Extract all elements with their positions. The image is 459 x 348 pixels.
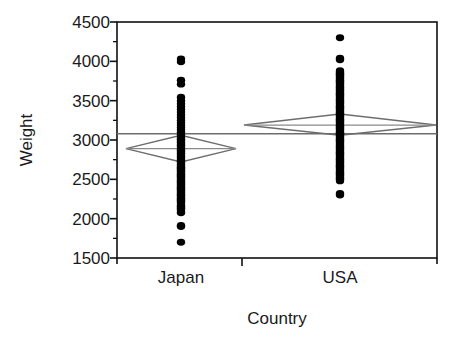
y-tick-label: 2500 xyxy=(72,170,110,189)
data-point xyxy=(177,239,185,246)
plot-canvas: Weight Country 1500200025003000350040004… xyxy=(0,0,459,348)
data-point xyxy=(336,55,344,62)
y-tick-label: 3500 xyxy=(72,92,110,111)
data-point xyxy=(177,94,185,101)
category-label-group: JapanUSA xyxy=(158,268,358,287)
data-point xyxy=(177,222,185,229)
data-point xyxy=(336,34,344,41)
category-label-usa: USA xyxy=(323,268,359,287)
x-tick-mark-group xyxy=(117,258,437,266)
y-tick-label: 3000 xyxy=(72,131,110,150)
x-axis-title: Country xyxy=(247,309,307,328)
data-point xyxy=(336,67,344,74)
diamond-group xyxy=(126,114,436,162)
y-tick-label: 1500 xyxy=(72,249,110,268)
category-label-japan: Japan xyxy=(158,268,204,287)
data-point xyxy=(177,77,185,84)
data-point xyxy=(336,190,344,197)
y-axis-title: Weight xyxy=(17,113,36,166)
y-tick-label: 4000 xyxy=(72,52,110,71)
plot-frame xyxy=(117,22,437,258)
oneway-diamond-chart: Weight Country 1500200025003000350040004… xyxy=(0,0,459,348)
y-tick-label-group: 1500200025003000350040004500 xyxy=(72,13,110,268)
data-point xyxy=(177,56,185,63)
y-tick-mark-group xyxy=(110,22,117,258)
y-tick-label: 4500 xyxy=(72,13,110,32)
y-tick-label: 2000 xyxy=(72,210,110,229)
